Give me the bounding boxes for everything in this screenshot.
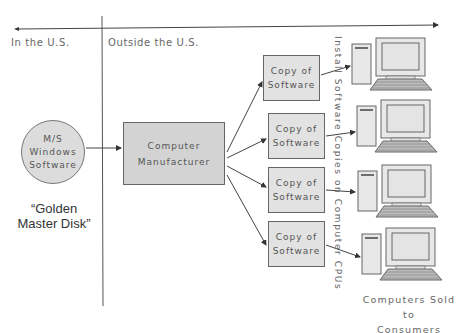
golden-master-disk-caption: “Golden Master Disk” bbox=[14, 201, 94, 231]
disk-label-line3: Software bbox=[29, 159, 77, 172]
install-copies-label: Install Software Copies on Computer CPUs bbox=[333, 36, 343, 290]
consumers-line2: Consumers bbox=[355, 322, 463, 333]
region-label-outside-us: Outside the U.S. bbox=[108, 37, 199, 48]
left-arrowhead-icon bbox=[14, 27, 19, 31]
copy-line1: Copy of bbox=[268, 64, 316, 78]
copy-line2: Software bbox=[273, 136, 321, 150]
manufacturer-line1: Computer bbox=[138, 138, 210, 154]
computer-icon bbox=[362, 228, 442, 280]
copy-line1: Copy of bbox=[273, 230, 321, 244]
copy-line1: Copy of bbox=[273, 176, 321, 190]
computer-icon bbox=[358, 165, 438, 217]
border-axis-line bbox=[17, 25, 438, 29]
caption-line2: Master Disk” bbox=[14, 216, 94, 231]
consumers-line1: Computers Sold to bbox=[355, 292, 463, 322]
software-copy-node: Copy ofSoftware bbox=[263, 55, 320, 101]
manufacturer-line2: Manufacturer bbox=[138, 154, 210, 170]
computers-sold-label: Computers Sold to Consumers bbox=[355, 292, 463, 333]
software-copy-node: Copy ofSoftware bbox=[268, 221, 325, 267]
border-divider-line bbox=[102, 16, 103, 306]
copy-line2: Software bbox=[273, 190, 321, 204]
disk-label-line2: Windows bbox=[29, 146, 77, 159]
caption-line1: “Golden bbox=[14, 201, 94, 216]
region-label-us: In the U.S. bbox=[11, 37, 70, 48]
copy-line2: Software bbox=[268, 78, 316, 92]
computer-manufacturer-node: Computer Manufacturer bbox=[123, 122, 225, 185]
software-copy-node: Copy ofSoftware bbox=[268, 113, 325, 159]
copy-line1: Copy of bbox=[273, 122, 321, 136]
disk-label-line1: M/S bbox=[29, 133, 77, 146]
computer-icon bbox=[357, 100, 437, 152]
software-copy-node: Copy ofSoftware bbox=[268, 167, 325, 213]
copy-line2: Software bbox=[273, 244, 321, 258]
golden-master-disk-node: M/S Windows Software bbox=[21, 120, 85, 184]
computer-icon bbox=[352, 38, 432, 90]
